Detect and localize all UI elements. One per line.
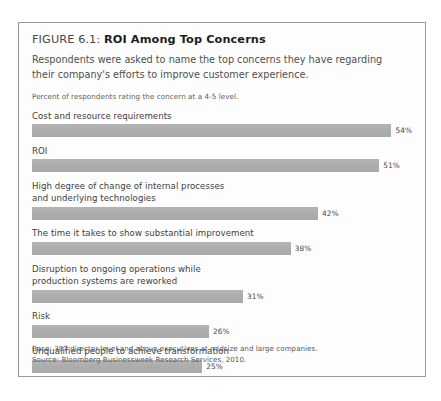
bar-value-label: 51% [383, 161, 400, 170]
bar-track: 54% [32, 124, 412, 137]
bar-row: High degree of change of internal proces… [32, 180, 412, 220]
bar-track: 38% [32, 242, 412, 255]
bar-category-label: Risk [32, 310, 412, 322]
bar-track: 26% [32, 325, 412, 338]
bar-track: 51% [32, 159, 412, 172]
base-note: Base: 307 director-level and above execu… [32, 343, 412, 354]
bar-value-label: 42% [322, 209, 339, 218]
bar-fill [32, 207, 318, 220]
bar-chart: Cost and resource requirements54%ROI51%H… [32, 110, 412, 373]
bar-category-label: Disruption to ongoing operations while p… [32, 263, 412, 287]
figure-card: FIGURE 6.1: ROI Among Top Concerns Respo… [18, 22, 426, 377]
bar-category-label: Cost and resource requirements [32, 110, 412, 122]
source-note: Source: Bloomberg Businessweek Research … [32, 354, 412, 365]
bar-track: 42% [32, 207, 412, 220]
bar-fill [32, 290, 243, 303]
bar-fill [32, 159, 379, 172]
bar-fill [32, 242, 291, 255]
bar-category-label: The time it takes to show substantial im… [32, 227, 412, 239]
bar-row: Disruption to ongoing operations while p… [32, 263, 412, 303]
figure-footer: Base: 307 director-level and above execu… [32, 343, 412, 365]
bar-value-label: 31% [247, 292, 264, 301]
bar-fill [32, 124, 391, 137]
figure-content: FIGURE 6.1: ROI Among Top Concerns Respo… [19, 23, 425, 373]
bar-track: 31% [32, 290, 412, 303]
bar-row: The time it takes to show substantial im… [32, 227, 412, 255]
bar-row: ROI51% [32, 145, 412, 173]
bar-fill [32, 325, 209, 338]
bar-value-label: 38% [295, 244, 312, 253]
bar-category-label: High degree of change of internal proces… [32, 180, 412, 204]
axis-note: Percent of respondents rating the concer… [32, 92, 412, 101]
figure-title-text: ROI Among Top Concerns [104, 33, 266, 46]
bar-row: Risk26% [32, 310, 412, 338]
bar-row: Cost and resource requirements54% [32, 110, 412, 138]
figure-title: FIGURE 6.1: ROI Among Top Concerns [32, 33, 412, 47]
figure-subtitle: Respondents were asked to name the top c… [32, 53, 387, 82]
bar-category-label: ROI [32, 145, 412, 157]
figure-number-label: FIGURE 6.1: [32, 33, 100, 46]
bar-value-label: 26% [213, 327, 230, 336]
bar-value-label: 54% [395, 126, 412, 135]
